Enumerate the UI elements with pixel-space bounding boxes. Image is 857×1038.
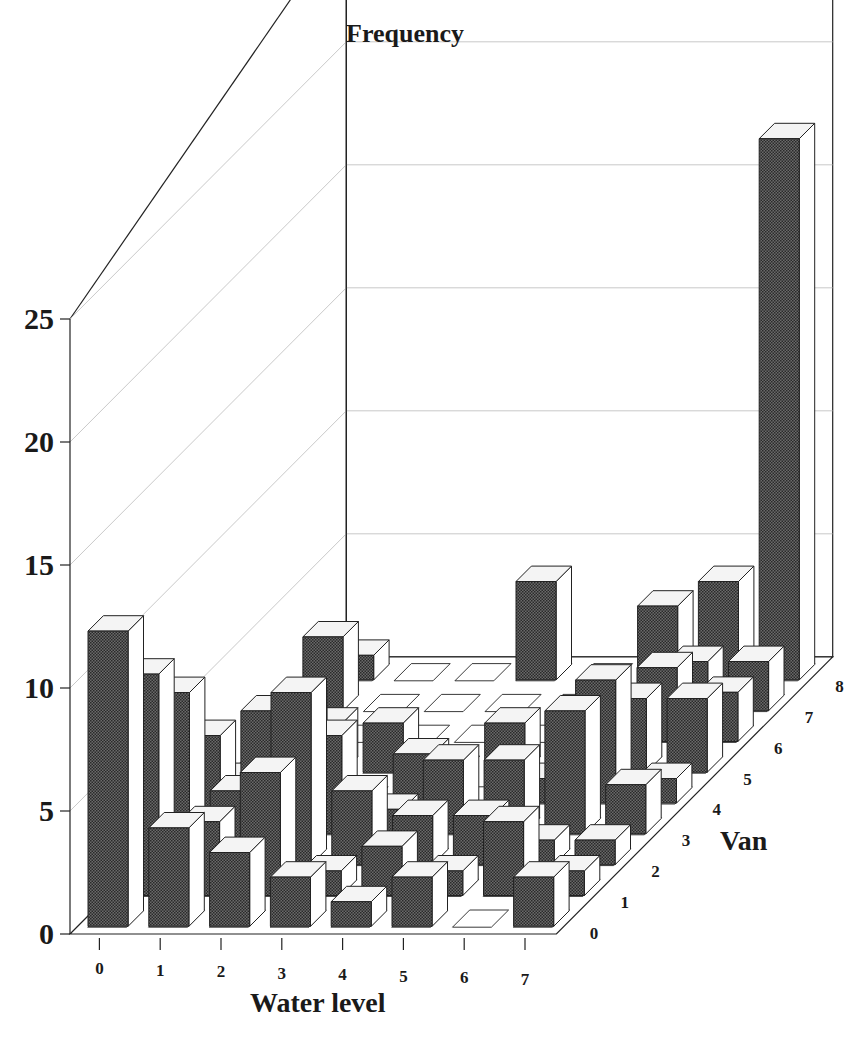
z-tick-label: 25 (24, 302, 54, 335)
x-tick-label: 7 (521, 970, 530, 989)
x-axis-title: Water level (250, 987, 386, 1018)
x-tick-label: 6 (460, 968, 469, 987)
y-tick-label: 0 (590, 924, 599, 943)
bar-front (514, 877, 554, 926)
y-tick-label: 1 (620, 893, 629, 912)
left-wall-top-edge (70, 0, 346, 319)
bar-front (667, 699, 707, 773)
bar-front (88, 631, 128, 926)
bar-front (270, 877, 310, 926)
bar-side (799, 123, 814, 680)
y-tick-label: 6 (774, 739, 783, 758)
bar-front (516, 582, 556, 680)
bar (514, 862, 570, 927)
chart-title: Frequency (346, 19, 464, 48)
bar-side (585, 696, 600, 834)
bar-front (210, 853, 250, 927)
bar-front (331, 902, 371, 927)
bar (516, 566, 572, 680)
bar (149, 813, 205, 927)
x-tick-label: 1 (156, 961, 165, 980)
bar-side (189, 813, 204, 927)
x-tick-label: 4 (338, 965, 347, 984)
y-tick-label: 4 (713, 800, 722, 819)
x-tick-label: 5 (399, 967, 408, 986)
z-tick-label: 15 (24, 548, 54, 581)
bar (667, 683, 723, 772)
y-tick-label: 3 (682, 831, 691, 850)
x-tick-label: 0 (95, 959, 104, 978)
z-tick-label: 0 (39, 917, 54, 950)
bar (392, 862, 448, 927)
bar (759, 123, 815, 680)
x-tick-label: 3 (278, 964, 287, 983)
bar-front (149, 828, 189, 926)
y-axis-title: Van (720, 825, 768, 856)
bar-side (128, 616, 143, 927)
y-tick-label: 2 (651, 862, 660, 881)
y-tick-label: 7 (805, 708, 814, 727)
bar (545, 696, 601, 834)
z-tick-label: 5 (39, 794, 54, 827)
x-tick-label: 2 (217, 962, 226, 981)
z-tick-label: 20 (24, 425, 54, 458)
bar-side (556, 566, 571, 680)
z-tick-label: 10 (24, 671, 54, 704)
y-tick-label: 5 (743, 770, 752, 789)
bar-chart-3d: 051015202501234567012345678 Frequency Wa… (0, 0, 857, 1038)
y-tick-label: 8 (835, 677, 844, 696)
bar (210, 837, 266, 926)
bar (270, 862, 326, 927)
bar-side (311, 677, 326, 865)
bar (88, 616, 144, 927)
bar-front (545, 711, 585, 834)
bar-front (392, 877, 432, 926)
bar-front (759, 139, 799, 680)
